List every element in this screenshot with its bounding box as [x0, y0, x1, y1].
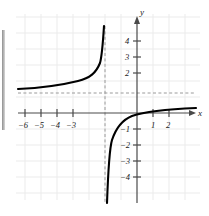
y-tick-label-2: 2 [125, 69, 129, 78]
y-tick-label-4: 4 [125, 37, 129, 46]
x-tick-label-neg6: −6 [18, 121, 28, 130]
y-tick-label-neg1: −1 [120, 125, 130, 134]
x-tick-label-neg3: −3 [66, 121, 76, 130]
y-tick-label-neg2: −2 [120, 141, 130, 150]
y-axis [133, 16, 141, 203]
x-axis-label: x [198, 109, 202, 118]
x-tick-label-2: 2 [166, 121, 170, 130]
curve-left-branch [18, 26, 104, 89]
y-tick-label-neg3: −3 [120, 157, 130, 166]
y-tick-label-neg4: −4 [120, 173, 130, 182]
x-tick-label-1: 1 [151, 121, 155, 130]
y-tick-label-3: 3 [125, 53, 129, 62]
x-tick-label-neg4: −4 [50, 121, 60, 130]
x-tick-label-neg5: −5 [34, 121, 44, 130]
figure-container: −6 −5 −4 −3 1 2 4 3 2 −1 −2 −3 −4 x y [0, 0, 209, 216]
y-axis-label: y [140, 8, 144, 17]
graph-plot [0, 0, 209, 216]
